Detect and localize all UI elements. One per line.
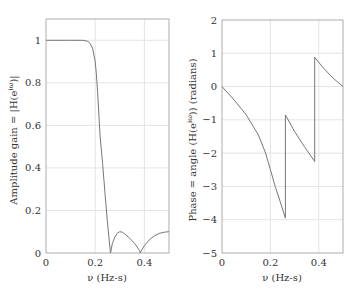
phase-y-tick: 0 (211, 81, 217, 92)
phase-y-tick: −4 (202, 214, 217, 225)
amplitude-line (46, 40, 169, 253)
left-x-axis-label: ν (Hz-s) (87, 272, 127, 283)
right-x-axis-label: ν (Hz-s) (262, 272, 302, 283)
phase-y-tick: −1 (202, 114, 217, 125)
amplitude-y-tick: 1 (35, 35, 41, 46)
phase-x-tick: 0.2 (262, 257, 278, 268)
chart-canvas: 00.20.400.20.40.60.81 00.20.4−5−4−3−2−10… (0, 0, 353, 292)
amplitude-y-tick: 0.8 (25, 77, 41, 88)
amplitude-y-tick: 0.4 (25, 162, 41, 173)
amplitude-plot: 00.20.400.20.40.60.81 (25, 19, 169, 268)
phase-line (222, 57, 343, 218)
phase-y-tick: −5 (202, 248, 217, 259)
amplitude-y-tick: 0.6 (25, 120, 41, 131)
phase-y-tick: −3 (202, 181, 217, 192)
right-y-axis-label: Phase = angle (H(eiω)) (radians) (186, 58, 198, 221)
phase-plot: 00.20.4−5−4−3−2−1012 (202, 15, 343, 269)
amplitude-x-tick: 0.4 (136, 257, 152, 268)
phase-x-tick: 0.4 (311, 257, 327, 268)
phase-y-tick: 1 (211, 48, 217, 59)
phase-y-tick: 2 (211, 15, 217, 26)
left-y-axis-label: Amplitude gain = |H(eiω)| (7, 75, 20, 205)
amplitude-y-tick: 0.2 (25, 205, 41, 216)
phase-x-tick: 0 (219, 257, 225, 268)
phase-frame (222, 20, 343, 253)
amplitude-x-tick: 0 (43, 257, 49, 268)
amplitude-x-tick: 0.2 (87, 257, 103, 268)
phase-y-tick: −2 (202, 148, 217, 159)
amplitude-y-tick: 0 (35, 248, 41, 259)
